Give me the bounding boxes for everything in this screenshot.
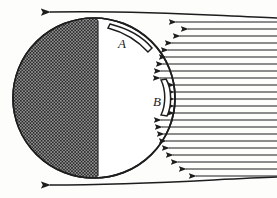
streamline-layer bbox=[160, 22, 277, 176]
figure-container: A B bbox=[0, 0, 277, 198]
top-bounding-streamline bbox=[50, 12, 277, 18]
flow-diagram: A B bbox=[0, 0, 277, 198]
body-circle-group bbox=[13, 18, 175, 178]
slot-a-label: A bbox=[117, 36, 126, 51]
slot-b-label: B bbox=[153, 94, 161, 109]
